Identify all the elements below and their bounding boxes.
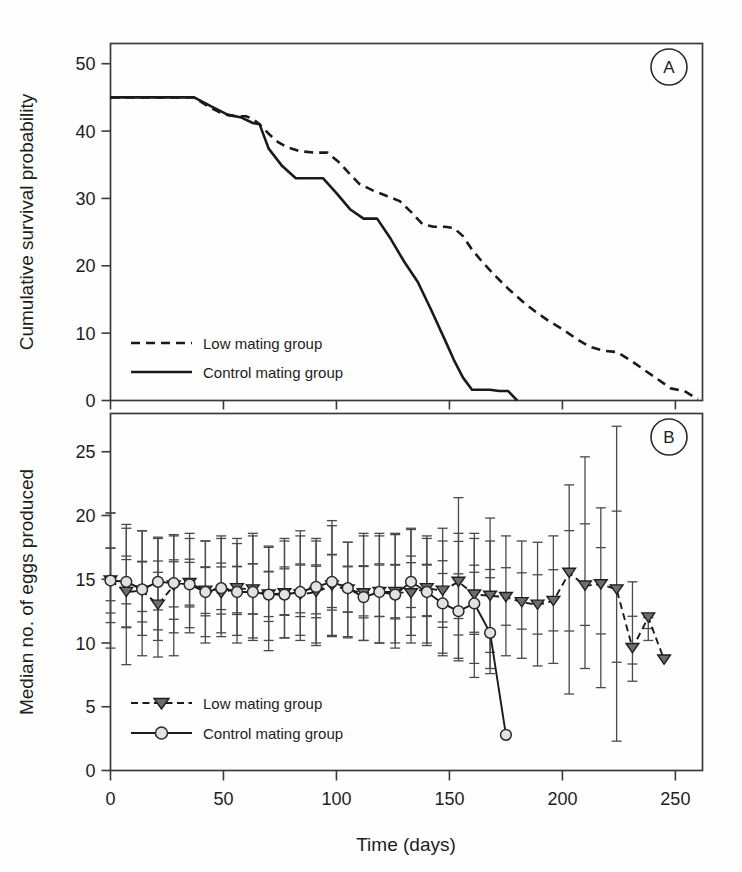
panel-a-y-tick-label: 20	[75, 256, 95, 276]
panel-b-y-axis-label: Median no. of eggs produced	[16, 469, 37, 715]
panel-b-x-tick-labels: 050100150200250	[105, 789, 690, 809]
panel-a-letter: A	[663, 58, 675, 77]
marker-circle	[168, 578, 179, 589]
marker-circle	[200, 587, 211, 598]
marker-triangle-down	[563, 568, 576, 577]
marker-circle	[327, 576, 338, 587]
marker-circle	[263, 589, 274, 600]
panel-a-x-ticks	[111, 401, 676, 410]
marker-circle	[390, 589, 401, 600]
panel-b-x-tick-label: 200	[547, 789, 577, 809]
marker-circle	[406, 576, 417, 587]
panel-b-letter: B	[663, 428, 674, 447]
panel-b-y-tick-label: 20	[75, 506, 95, 526]
panel-b-legend: Low mating group Control mating group	[131, 695, 343, 742]
panel-a-curves	[111, 97, 698, 400]
x-axis-label: Time (days)	[356, 834, 456, 855]
panel-b: 0510152025 050100150200250 Median no. of…	[16, 414, 703, 809]
legend-b-label-control: Control mating group	[203, 725, 343, 742]
marker-triangle-down	[500, 593, 513, 602]
marker-circle	[469, 598, 480, 609]
panel-a-y-tick-label: 30	[75, 189, 95, 209]
marker-circle	[216, 583, 227, 594]
marker-circle	[421, 587, 432, 598]
marker-circle	[295, 587, 306, 598]
panel-a-y-axis-label: Cumulative survival probability	[16, 93, 37, 350]
panel-a-y-tick-label: 50	[75, 54, 95, 74]
panel-b-x-ticks	[111, 771, 676, 781]
panel-b-y-tick-label: 5	[85, 697, 95, 717]
panel-b-x-tick-label: 250	[660, 789, 690, 809]
marker-triangle-down	[152, 600, 165, 609]
marker-circle	[501, 729, 512, 740]
legend-b-label-low: Low mating group	[203, 695, 322, 712]
marker-circle	[247, 587, 258, 598]
marker-circle	[105, 575, 116, 586]
panel-b-y-tick-labels: 0510152025	[75, 442, 95, 781]
marker-circle	[358, 592, 369, 603]
panel-b-y-tick-label: 0	[85, 761, 95, 781]
panel-a-letter-badge: A	[651, 49, 687, 85]
panel-a: 01020304050 Cumulative survival probabil…	[16, 44, 703, 412]
panel-a-y-tick-label: 10	[75, 324, 95, 344]
legend-b-circle-icon	[156, 727, 168, 739]
panel-a-frame	[111, 44, 703, 401]
marker-triangle-down	[531, 600, 544, 609]
panel-b-y-ticks	[102, 452, 111, 771]
legend-a-label-low: Low mating group	[203, 335, 322, 352]
panel-b-y-tick-label: 10	[75, 634, 95, 654]
legend-a-label-control: Control mating group	[203, 364, 343, 381]
marker-circle	[153, 576, 164, 587]
marker-circle	[485, 627, 496, 638]
panel-b-x-tick-label: 50	[213, 789, 233, 809]
panel-a-curve-dashed	[111, 97, 698, 399]
panel-b-letter-badge: B	[651, 419, 687, 455]
panel-a-legend: Low mating group Control mating group	[131, 335, 343, 381]
panel-b-x-tick-label: 100	[321, 789, 351, 809]
marker-circle	[374, 587, 385, 598]
marker-circle	[453, 606, 464, 617]
figure-svg: 01020304050 Cumulative survival probabil…	[0, 0, 742, 872]
panel-a-y-ticks	[102, 64, 111, 401]
figure-container: 01020304050 Cumulative survival probabil…	[0, 0, 742, 872]
marker-triangle-down	[626, 644, 639, 653]
marker-circle	[342, 583, 353, 594]
marker-circle	[184, 579, 195, 590]
marker-circle	[437, 598, 448, 609]
marker-circle	[121, 576, 132, 587]
marker-triangle-down	[547, 596, 560, 605]
panel-b-y-tick-label: 15	[75, 570, 95, 590]
panel-a-y-tick-label: 40	[75, 122, 95, 142]
panel-a-curve-solid	[111, 97, 518, 400]
panel-a-y-tick-label: 0	[85, 391, 95, 411]
marker-circle	[279, 589, 290, 600]
marker-circle	[232, 587, 243, 598]
marker-triangle-down	[658, 655, 671, 664]
marker-circle	[311, 582, 322, 593]
marker-triangle-down	[610, 585, 623, 594]
panel-b-x-tick-label: 150	[434, 789, 464, 809]
marker-circle	[137, 584, 148, 595]
panel-a-y-tick-labels: 01020304050	[75, 54, 95, 411]
marker-triangle-down	[436, 586, 449, 595]
panel-b-x-tick-label: 0	[105, 789, 115, 809]
marker-triangle-down	[405, 589, 418, 598]
panel-b-y-tick-label: 25	[75, 442, 95, 462]
panel-b-curves	[111, 573, 665, 735]
